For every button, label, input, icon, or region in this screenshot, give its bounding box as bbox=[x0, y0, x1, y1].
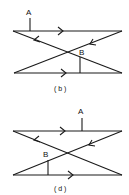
panel-caption: ( d ) bbox=[54, 185, 66, 193]
point-a-label: A bbox=[78, 107, 84, 116]
point-b-label: B bbox=[43, 150, 48, 159]
panel-d bbox=[13, 118, 122, 179]
point-b-label: B bbox=[79, 48, 84, 57]
point-a-label: A bbox=[26, 8, 32, 17]
panel-b bbox=[13, 18, 122, 77]
figure: A B ( b ) A B ( d ) bbox=[0, 0, 129, 195]
panel-caption: ( b ) bbox=[54, 85, 66, 93]
